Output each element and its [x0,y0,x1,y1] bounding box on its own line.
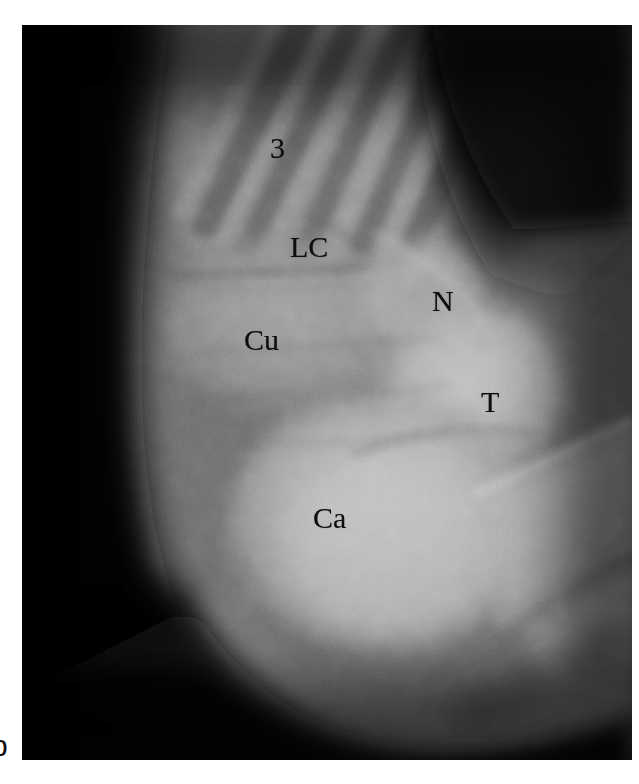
radiograph-image: 3 LC Cu N T Ca [22,25,632,760]
label-lateral-cuneiform: LC [290,232,328,262]
xray-canvas [22,25,632,760]
label-talus: T [481,387,499,417]
label-third-metatarsal: 3 [270,133,285,163]
label-calcaneus: Ca [313,503,346,533]
label-navicular: N [432,286,454,316]
panel-label: b [0,726,25,766]
figure-root: b [0,0,639,784]
label-cuboid: Cu [244,325,279,355]
